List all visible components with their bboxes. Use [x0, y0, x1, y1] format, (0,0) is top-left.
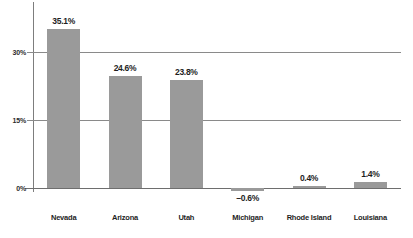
- bar-value-label: 24.6%: [94, 64, 155, 73]
- bar-michigan[interactable]: [231, 188, 264, 191]
- bar-value-label: 0.4%: [278, 174, 339, 183]
- category-label-louisiana: Louisiana: [330, 214, 411, 222]
- bar-nevada[interactable]: [47, 29, 80, 188]
- bar-louisiana[interactable]: [354, 182, 387, 188]
- bar-value-label: 35.1%: [33, 17, 94, 26]
- bar-utah[interactable]: [170, 80, 203, 188]
- bar-value-label: 1.4%: [340, 170, 401, 179]
- bar-value-label: –0.6%: [217, 194, 278, 203]
- bar-value-label: 23.8%: [156, 68, 217, 77]
- bar-chart: 0%15%30% 35.1%Nevada24.6%Arizona23.8%Uta…: [0, 0, 413, 238]
- bar-rhode-island[interactable]: [293, 186, 326, 188]
- bars-layer: 35.1%Nevada24.6%Arizona23.8%Utah–0.6%Mic…: [0, 0, 413, 238]
- bar-arizona[interactable]: [109, 76, 142, 188]
